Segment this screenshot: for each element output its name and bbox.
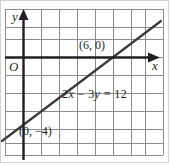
equation-label: 2x − 3y = 12 (62, 88, 127, 100)
y-axis-label: y (12, 10, 18, 23)
coordinate-plane (0, 0, 171, 165)
y-intercept-point-label: (0, −4) (19, 125, 52, 137)
equation-constant: 12 (114, 87, 127, 101)
x-axis-label: x (152, 59, 158, 72)
graph-screenshot: y x O (6, 0) (0, −4) 2x − 3y = 12 (0, 0, 171, 165)
equation-operator-1: − (78, 87, 85, 101)
equation-equals: = (104, 87, 111, 101)
origin-label: O (9, 60, 18, 73)
x-intercept-point-label: (6, 0) (79, 39, 105, 51)
equation-var-2: y (95, 87, 101, 101)
x-axis (5, 53, 160, 63)
equation-var-1: x (68, 87, 74, 101)
